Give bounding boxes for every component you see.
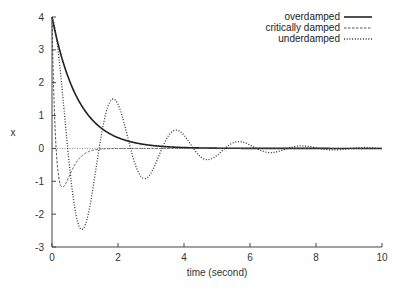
y-tick-label: 4 bbox=[38, 12, 44, 23]
x-tick-label: 8 bbox=[313, 252, 319, 263]
series-underdamped bbox=[52, 17, 382, 230]
x-tick-label: 2 bbox=[115, 252, 121, 263]
x-ticks: 0246810 bbox=[49, 243, 388, 263]
legend-label-critically-damped: critically damped bbox=[266, 22, 340, 33]
legend-label-overdamped: overdamped bbox=[284, 11, 340, 22]
legend-label-underdamped: underdamped bbox=[278, 33, 340, 44]
y-tick-label: 0 bbox=[38, 143, 44, 154]
damping-chart: 0246810 -3-2-101234 time (second) x over… bbox=[0, 0, 407, 290]
y-axis-label: x bbox=[11, 127, 16, 138]
y-tick-label: 1 bbox=[38, 110, 44, 121]
x-axis-label: time (second) bbox=[187, 267, 248, 278]
x-tick-label: 6 bbox=[247, 252, 253, 263]
y-tick-label: -1 bbox=[35, 176, 44, 187]
plot-area bbox=[52, 17, 382, 230]
x-tick-label: 4 bbox=[181, 252, 187, 263]
y-tick-label: -3 bbox=[35, 242, 44, 253]
x-tick-label: 10 bbox=[376, 252, 388, 263]
y-tick-label: 3 bbox=[38, 44, 44, 55]
y-tick-label: 2 bbox=[38, 77, 44, 88]
y-tick-label: -2 bbox=[35, 209, 44, 220]
y-ticks: -3-2-101234 bbox=[35, 12, 56, 253]
x-tick-label: 0 bbox=[49, 252, 55, 263]
legend: overdamped critically damped underdamped bbox=[266, 11, 372, 44]
